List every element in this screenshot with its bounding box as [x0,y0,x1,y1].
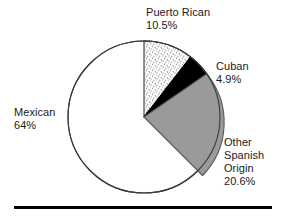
pie-label-other-spanish-origin-line2: Spanish [224,149,264,162]
pie-label-mexican: Mexican 64% [14,106,55,132]
pie-label-other-spanish-origin-line3: Origin [224,162,264,175]
bottom-divider-rule [14,206,272,209]
pie-label-other-spanish-origin: Other Spanish Origin 20.6% [224,136,264,188]
pie-label-cuban-value: 4.9% [216,73,249,86]
pie-label-other-spanish-origin-line1: Other [224,136,264,149]
pie-label-puerto-rican-name: Puerto Rican [146,6,210,19]
pie-label-cuban: Cuban 4.9% [216,60,249,86]
pie-label-other-spanish-origin-value: 20.6% [224,175,264,188]
pie-label-mexican-name: Mexican [14,106,55,119]
pie-label-puerto-rican-value: 10.5% [146,19,210,32]
pie-label-cuban-name: Cuban [216,60,249,73]
pie-label-mexican-value: 64% [14,119,55,132]
pie-chart-figure: Puerto Rican 10.5% Cuban 4.9% Other Span… [0,0,286,220]
pie-label-puerto-rican: Puerto Rican 10.5% [146,6,210,32]
